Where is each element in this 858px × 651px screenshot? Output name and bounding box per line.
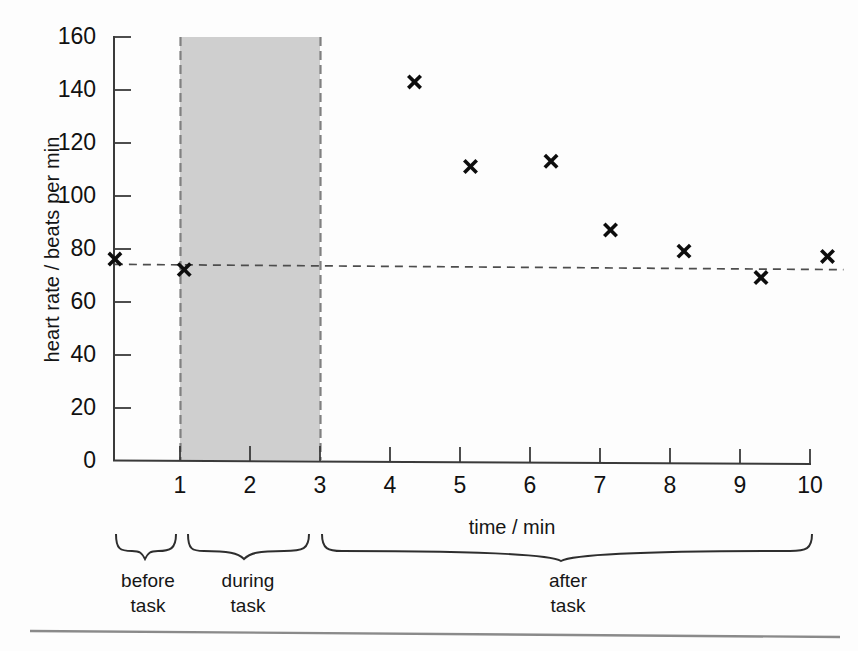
phase-label-before-task: before task [105,568,191,618]
heart-rate-chart-figure: heart rate / beats per min 160 140 120 1… [0,0,858,651]
brace-during-task [188,534,309,559]
y-tick-label-140: 140 [50,76,96,103]
plot-canvas [0,0,858,651]
phase-label-after-task: after task [525,568,611,618]
data-point-marker [821,250,833,262]
x-tick-label-6: 6 [510,472,550,499]
phase-during-line1: during [205,568,291,593]
data-point-marker [678,245,690,257]
y-tick-label-40: 40 [50,341,96,368]
data-point-marker [408,76,420,88]
x-axis-title: time / min [402,516,622,539]
data-point-marker [545,155,557,167]
phase-during-line2: task [205,593,291,618]
x-tick-label-8: 8 [650,472,690,499]
x-tick-label-1: 1 [160,472,200,499]
phase-after-line1: after [525,568,611,593]
y-tick-label-20: 20 [50,394,96,421]
x-tick-label-3: 3 [300,472,340,499]
y-tick-label-80: 80 [50,235,96,262]
data-point-marker [604,224,616,236]
x-tick-label-2: 2 [230,472,270,499]
x-tick-label-5: 5 [440,472,480,499]
y-tick-label-120: 120 [50,129,96,156]
y-tick-label-160: 160 [50,23,96,50]
data-point-marker [464,160,476,172]
data-point-marker [755,271,767,283]
phase-after-line2: task [525,593,611,618]
y-tick-label-100: 100 [50,182,96,209]
x-tick-label-4: 4 [370,472,410,499]
y-axis-ticks [114,37,131,408]
x-axis-spine [113,461,811,465]
x-tick-label-10: 10 [790,472,830,499]
x-tick-label-9: 9 [720,472,760,499]
brace-before-task [116,534,176,559]
y-tick-label-60: 60 [50,288,96,315]
y-tick-label-0: 0 [50,447,96,474]
page-bottom-rule [30,631,840,637]
phase-before-line1: before [105,568,191,593]
phase-before-line2: task [105,593,191,618]
phase-label-during-task: during task [205,568,291,618]
x-tick-label-7: 7 [580,472,620,499]
during-task-shaded-region [180,37,320,460]
